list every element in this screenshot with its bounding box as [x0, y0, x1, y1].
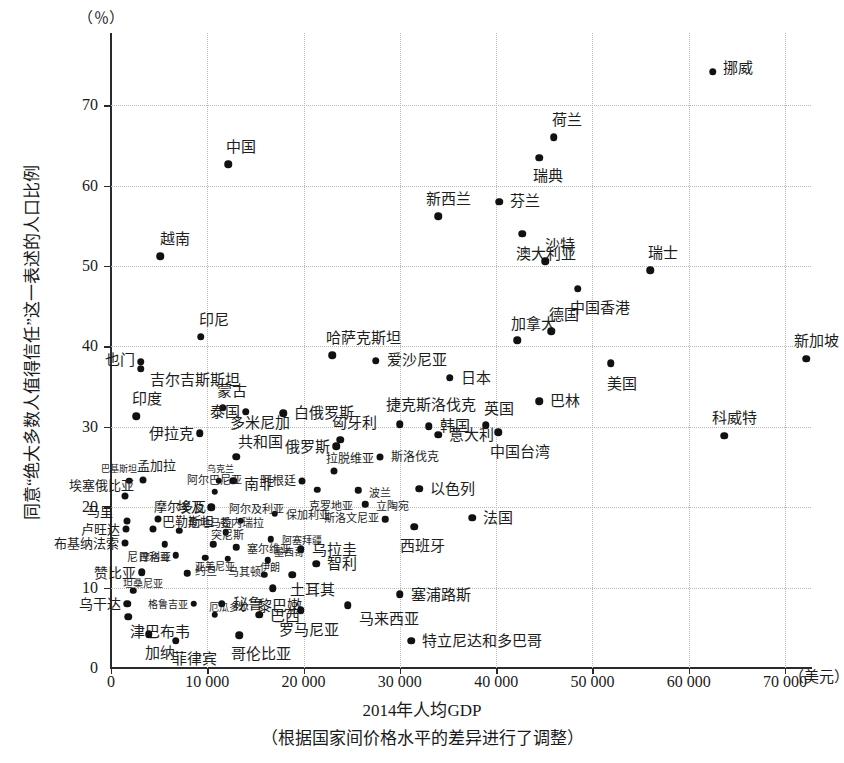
- data-point-label: 挪威: [723, 56, 753, 77]
- data-point-label: 印度: [132, 387, 162, 408]
- data-point[interactable]: [435, 431, 443, 439]
- data-point-label: 布基纳法索: [54, 533, 119, 552]
- data-point[interactable]: [355, 487, 362, 494]
- data-point-label: 加纳: [145, 641, 175, 662]
- data-point[interactable]: [156, 253, 164, 261]
- data-point[interactable]: [124, 517, 131, 524]
- data-point[interactable]: [197, 333, 205, 341]
- data-point-label: 瑞典: [533, 164, 563, 185]
- gridline-vertical: [689, 33, 690, 668]
- data-point-label: 巴林: [550, 389, 580, 410]
- y-tick: [104, 186, 111, 187]
- data-point[interactable]: [425, 422, 433, 430]
- data-point[interactable]: [191, 600, 198, 607]
- data-point-label: 保加利亚: [286, 506, 330, 522]
- data-point[interactable]: [607, 360, 615, 368]
- y-tick-label: 20: [64, 498, 98, 516]
- data-point[interactable]: [396, 590, 404, 598]
- data-point[interactable]: [235, 631, 243, 639]
- data-point[interactable]: [298, 477, 305, 484]
- data-point-label: 蒙古: [217, 379, 247, 400]
- y-tick-label: 70: [64, 96, 98, 114]
- data-point[interactable]: [518, 230, 526, 238]
- data-point[interactable]: [646, 266, 654, 274]
- data-point[interactable]: [376, 454, 383, 461]
- data-point[interactable]: [145, 630, 153, 638]
- data-point[interactable]: [256, 611, 264, 619]
- data-point[interactable]: [176, 527, 183, 534]
- data-point[interactable]: [184, 570, 191, 577]
- data-point[interactable]: [382, 516, 389, 523]
- data-point[interactable]: [408, 637, 416, 645]
- data-point-label: 亚美尼亚: [195, 558, 235, 573]
- gridline-horizontal: [111, 507, 811, 508]
- gridline-vertical: [592, 33, 593, 668]
- data-point[interactable]: [329, 352, 337, 360]
- data-point[interactable]: [196, 430, 204, 438]
- gridline-horizontal: [111, 105, 811, 106]
- data-point-label: 新西兰: [426, 187, 471, 208]
- data-point[interactable]: [396, 421, 404, 429]
- data-point[interactable]: [314, 486, 321, 493]
- data-point[interactable]: [172, 552, 179, 559]
- data-point[interactable]: [150, 525, 157, 532]
- data-point[interactable]: [297, 606, 305, 614]
- data-point[interactable]: [312, 560, 320, 568]
- data-point[interactable]: [536, 397, 544, 405]
- data-point-label: 中国台湾: [490, 440, 550, 461]
- data-point[interactable]: [125, 613, 133, 621]
- data-point[interactable]: [123, 525, 130, 532]
- y-axis-title: 同意“绝大多数人值得信任”这一表述的人口比例: [18, 13, 43, 673]
- data-point[interactable]: [269, 585, 277, 593]
- data-point[interactable]: [411, 523, 419, 531]
- data-point[interactable]: [709, 68, 717, 76]
- data-point[interactable]: [122, 540, 129, 547]
- data-point[interactable]: [550, 134, 558, 142]
- data-point[interactable]: [495, 198, 503, 206]
- gridline-vertical: [496, 33, 497, 668]
- data-point[interactable]: [344, 602, 352, 610]
- data-point[interactable]: [542, 258, 550, 266]
- x-axis-title: 2014年人均GDP: [0, 696, 844, 721]
- data-point[interactable]: [172, 637, 180, 645]
- data-point-label: 突尼斯: [211, 526, 244, 542]
- data-point-label: 格鲁吉亚: [148, 596, 188, 611]
- data-point[interactable]: [139, 476, 146, 483]
- data-point[interactable]: [802, 355, 810, 363]
- data-point[interactable]: [331, 468, 338, 475]
- data-point[interactable]: [435, 213, 443, 221]
- x-tick-label: 0: [107, 673, 115, 691]
- data-point[interactable]: [536, 154, 544, 162]
- chart-canvas: （％） （美元） 同意“绝大多数人值得信任”这一表述的人口比例 2014年人均G…: [0, 0, 844, 763]
- data-point[interactable]: [162, 541, 169, 548]
- data-point[interactable]: [514, 336, 522, 344]
- data-point-label: 中国: [226, 135, 256, 156]
- data-point[interactable]: [415, 485, 423, 493]
- data-point-label: 斯洛文尼亚: [324, 509, 379, 525]
- data-point[interactable]: [721, 432, 729, 440]
- data-point[interactable]: [155, 516, 162, 523]
- data-point-label: 日本: [461, 366, 491, 387]
- y-tick-label: 60: [64, 177, 98, 195]
- data-point-label: 芬兰: [510, 189, 540, 210]
- data-point[interactable]: [124, 600, 132, 608]
- data-point[interactable]: [372, 357, 380, 365]
- data-point[interactable]: [288, 571, 296, 579]
- data-point-label: 坦桑尼亚: [123, 575, 163, 590]
- x-tick-label: 20 000: [282, 673, 326, 691]
- data-point[interactable]: [233, 544, 240, 551]
- data-point[interactable]: [468, 514, 476, 522]
- data-point-label: 意大利: [449, 423, 494, 444]
- data-point[interactable]: [232, 453, 240, 461]
- data-point[interactable]: [446, 374, 454, 382]
- data-point[interactable]: [137, 365, 145, 373]
- data-point[interactable]: [212, 489, 219, 496]
- data-point-label: 哈萨克斯坦: [326, 326, 401, 347]
- data-point[interactable]: [225, 160, 233, 168]
- data-point[interactable]: [132, 413, 140, 421]
- data-point[interactable]: [207, 503, 215, 511]
- data-point[interactable]: [494, 429, 502, 437]
- data-point[interactable]: [362, 501, 369, 508]
- data-point-label: 津巴布韦: [130, 620, 190, 641]
- data-point[interactable]: [574, 285, 582, 293]
